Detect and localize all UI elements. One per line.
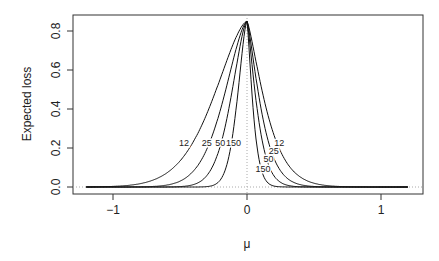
y-tick-label: 0.0 xyxy=(49,178,63,195)
x-tick-label: 0 xyxy=(244,203,251,217)
chart: −1010.00.20.40.60.8 121225255050150150 μ… xyxy=(0,0,439,261)
y-tick-label: 0.2 xyxy=(49,139,63,156)
curve-label-left-12: 12 xyxy=(179,138,189,148)
curve-label-right-150: 150 xyxy=(256,164,271,174)
curve-label-left-50: 50 xyxy=(215,138,225,148)
plot-frame xyxy=(73,15,423,194)
x-tick-label: −1 xyxy=(106,203,120,217)
x-axis-label: μ xyxy=(244,237,251,251)
y-tick-label: 0.4 xyxy=(49,100,63,117)
curve-label-left-150: 150 xyxy=(226,138,241,148)
y-tick-label: 0.6 xyxy=(49,61,63,78)
y-tick-label: 0.8 xyxy=(49,22,63,39)
curve-label-left-25: 25 xyxy=(202,138,212,148)
reference-lines xyxy=(73,15,423,194)
curve-label-right-50: 50 xyxy=(263,154,273,164)
x-tick-label: 1 xyxy=(378,203,385,217)
y-axis-label: Expected loss xyxy=(20,67,34,142)
